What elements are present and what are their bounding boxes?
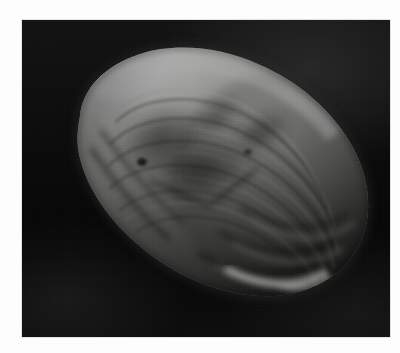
shell-subject xyxy=(22,20,390,337)
shell-body xyxy=(22,20,390,337)
photograph-plate xyxy=(22,20,390,337)
shell-illustration xyxy=(22,20,390,337)
page-sheet xyxy=(0,0,400,353)
cropped-caption-fragment xyxy=(100,0,300,7)
